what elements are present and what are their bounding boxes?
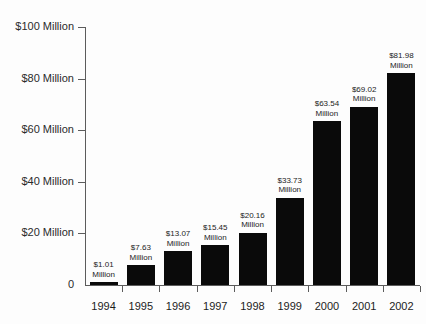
x-axis-tick [234, 286, 235, 292]
chart-title [0, 0, 426, 2]
y-axis-label: $100 Million [15, 21, 74, 32]
y-axis-label: $20 Million [21, 227, 74, 238]
bar-1994[interactable] [90, 282, 118, 285]
y-axis-tick [78, 79, 86, 80]
bar-2002[interactable] [387, 73, 415, 285]
bar-value-unit: Million [183, 233, 247, 243]
y-axis-tick [78, 233, 86, 234]
bar-1995[interactable] [127, 265, 155, 285]
x-axis-line [85, 285, 420, 286]
y-axis-tick [78, 130, 86, 131]
y-axis-label: $80 Million [21, 73, 74, 84]
bar-value-label: $20.16Million [221, 211, 285, 230]
y-axis-line [85, 27, 86, 286]
y-axis-tick [78, 27, 86, 28]
x-axis-label-2002: 2002 [379, 300, 423, 312]
x-axis-tick [346, 286, 347, 292]
x-axis-tick [197, 286, 198, 292]
bar-1998[interactable] [239, 233, 267, 285]
bar-value-amount: $20.16 [221, 211, 285, 221]
bar-1999[interactable] [276, 198, 304, 285]
x-axis-tick [420, 286, 421, 292]
x-axis-tick [383, 286, 384, 292]
y-axis-label: 0 [68, 279, 74, 290]
bar-2001[interactable] [350, 107, 378, 285]
bar-chart: $100 Million$80 Million$60 Million$40 Mi… [0, 0, 426, 324]
bar-value-label: $1.01Million [72, 260, 136, 279]
bar-value-unit: Million [369, 61, 426, 71]
y-axis-tick [78, 182, 86, 183]
bar-value-amount: $81.98 [369, 51, 426, 61]
bar-2000[interactable] [313, 121, 341, 285]
y-axis-label: $40 Million [21, 176, 74, 187]
y-axis-label: $60 Million [21, 124, 74, 135]
bar-1997[interactable] [201, 245, 229, 285]
x-axis-tick [159, 286, 160, 292]
bar-1996[interactable] [164, 251, 192, 285]
bar-value-label: $81.98Million [369, 51, 426, 70]
bar-value-unit: Million [221, 220, 285, 230]
bar-value-unit: Million [72, 270, 136, 280]
x-axis-tick [308, 286, 309, 292]
x-axis-tick [271, 286, 272, 292]
x-axis-tick [122, 286, 123, 292]
